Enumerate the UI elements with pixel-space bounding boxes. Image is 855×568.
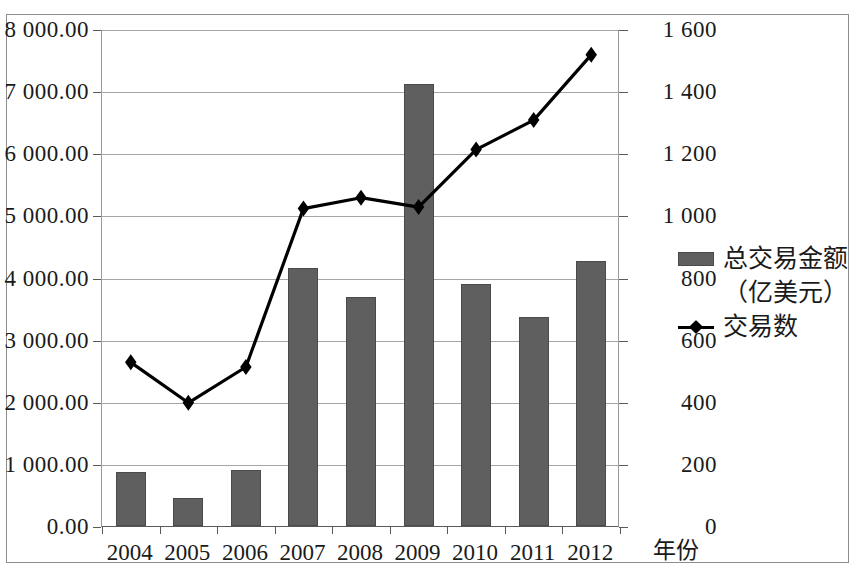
right-axis-tick-label: 400 bbox=[641, 391, 717, 414]
left-axis-tickmark bbox=[93, 216, 101, 217]
left-axis-tickmark bbox=[93, 341, 101, 342]
right-axis-tickmark bbox=[619, 279, 628, 280]
left-axis-tick-label: 7 000.00 bbox=[5, 80, 90, 103]
legend-label-deal-count: 交易数 bbox=[723, 313, 798, 341]
chart-legend: 总交易金额 （亿美元） 交易数 bbox=[678, 242, 850, 344]
legend-item-deal-count: 交易数 bbox=[678, 310, 850, 344]
left-axis-tick-label: 8 000.00 bbox=[5, 18, 90, 41]
right-axis-tickmark bbox=[619, 92, 628, 93]
x-axis-tickmark bbox=[505, 527, 506, 534]
left-axis-tick-label: 6 000.00 bbox=[5, 142, 90, 165]
x-axis-tickmark bbox=[160, 527, 161, 534]
line-marker-2006 bbox=[240, 359, 252, 375]
plot-area bbox=[101, 30, 619, 527]
chart-figure: 0.001 000.002 000.003 000.004 000.005 00… bbox=[0, 0, 855, 568]
x-axis-tickmark bbox=[562, 527, 563, 534]
left-axis-tick-label: 4 000.00 bbox=[5, 267, 90, 290]
x-axis-tickmark bbox=[332, 527, 333, 534]
x-axis-title: 年份 bbox=[653, 539, 699, 562]
left-axis-tickmark bbox=[93, 279, 101, 280]
left-axis-tick-label: 3 000.00 bbox=[5, 329, 90, 352]
left-axis-tickmark bbox=[93, 465, 101, 466]
legend-label-total-amount-line2: （亿美元） bbox=[723, 279, 848, 307]
left-axis-tick-label: 2 000.00 bbox=[5, 391, 90, 414]
right-axis-tickmark bbox=[619, 216, 628, 217]
left-axis-tickmark bbox=[93, 403, 101, 404]
left-axis-tickmark bbox=[93, 527, 101, 528]
left-axis-tick-label: 1 000.00 bbox=[5, 453, 90, 476]
legend-bar-swatch-icon bbox=[678, 252, 714, 266]
line-marker-2007 bbox=[298, 201, 310, 217]
left-axis-tick-label: 5 000.00 bbox=[5, 204, 90, 227]
line-marker-2008 bbox=[355, 190, 367, 206]
x-axis-tickmark bbox=[620, 527, 621, 534]
right-axis-tick-label: 1 000 bbox=[641, 204, 717, 227]
x-axis-tickmark bbox=[102, 527, 103, 534]
x-axis-tickmark bbox=[390, 527, 391, 534]
x-axis-tickmark bbox=[275, 527, 276, 534]
line-path bbox=[131, 55, 591, 403]
line-marker-2004 bbox=[125, 354, 137, 370]
right-axis-tickmark bbox=[619, 154, 628, 155]
left-axis-tickmark bbox=[93, 92, 101, 93]
x-axis-tickmark bbox=[447, 527, 448, 534]
right-axis-tickmark bbox=[619, 403, 628, 404]
legend-line-diamond-icon bbox=[678, 320, 714, 334]
right-axis-tick-label: 0 bbox=[641, 515, 717, 538]
line-marker-2005 bbox=[183, 395, 195, 411]
right-axis-tickmark bbox=[619, 465, 628, 466]
left-axis-tick-label: 0.00 bbox=[47, 515, 89, 538]
right-axis-tick-label: 1 400 bbox=[641, 80, 717, 103]
right-axis-tickmark bbox=[619, 30, 628, 31]
right-axis-tick-label: 1 200 bbox=[641, 142, 717, 165]
right-axis-tick-label: 1 600 bbox=[641, 18, 717, 41]
x-axis-label-2012: 2012 bbox=[550, 541, 630, 564]
legend-item-total-amount: 总交易金额 bbox=[678, 242, 850, 276]
line-series bbox=[102, 30, 620, 527]
legend-item-total-amount-unit: （亿美元） bbox=[678, 276, 850, 310]
x-axis-tickmark bbox=[217, 527, 218, 534]
legend-label-total-amount-line1: 总交易金额 bbox=[723, 245, 848, 273]
right-axis-tickmark bbox=[619, 341, 628, 342]
left-axis-tickmark bbox=[93, 30, 101, 31]
right-axis-tick-label: 200 bbox=[641, 453, 717, 476]
left-axis-tickmark bbox=[93, 154, 101, 155]
